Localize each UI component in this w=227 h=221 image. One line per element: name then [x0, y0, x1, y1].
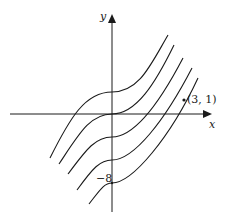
point-marker [182, 98, 185, 101]
solution-curves [50, 35, 198, 204]
diagram-canvas [0, 0, 227, 221]
curve-2 [59, 45, 174, 164]
y-intercept-label: −8 [96, 173, 112, 184]
x-axis-label: x [209, 119, 215, 130]
point-label: (3, 1) [187, 94, 217, 105]
y-axis-arrow-icon [108, 14, 116, 23]
y-axis-label: y [100, 11, 106, 22]
curve-1 [50, 35, 168, 158]
curve-3 [68, 58, 183, 174]
x-axis-arrow-icon [203, 110, 212, 118]
